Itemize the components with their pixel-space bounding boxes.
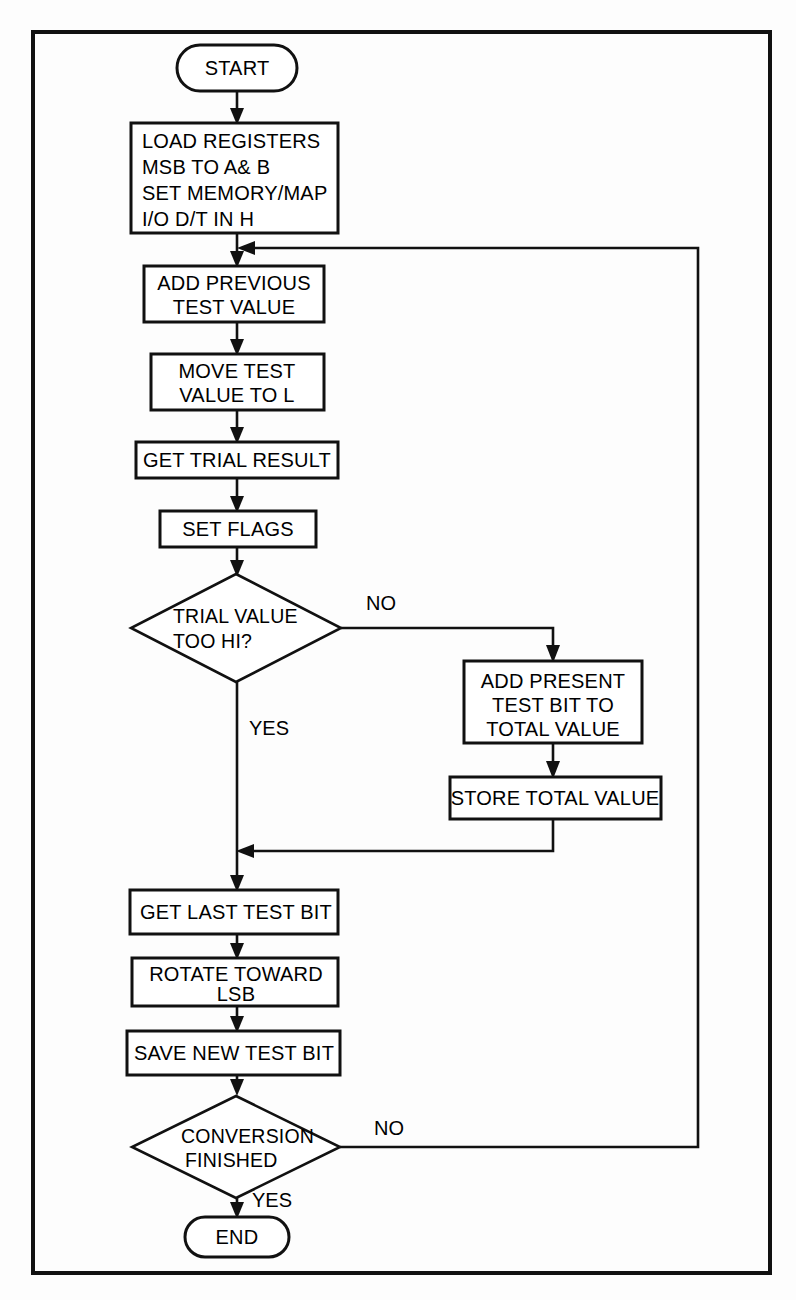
move-test-line-1: MOVE TEST bbox=[178, 360, 295, 382]
rotate-toward-lsb-line-1: ROTATE TOWARD bbox=[149, 963, 323, 985]
node-start[interactable]: START bbox=[177, 45, 297, 91]
node-add-previous[interactable]: ADD PREVIOUS TEST VALUE bbox=[144, 266, 324, 322]
node-save-new-test-bit[interactable]: SAVE NEW TEST BIT bbox=[127, 1031, 340, 1075]
edge-label-no-conversion: NO bbox=[374, 1117, 404, 1139]
load-registers-line-3: SET MEMORY/MAP bbox=[142, 182, 327, 204]
edge-label-yes-trial: YES bbox=[249, 717, 289, 739]
node-add-present[interactable]: ADD PRESENT TEST BIT TO TOTAL VALUE bbox=[464, 661, 642, 743]
connector-trial-no-to-add-present bbox=[341, 628, 560, 663]
node-load-registers[interactable]: LOAD REGISTERS MSB TO A& B SET MEMORY/MA… bbox=[131, 123, 338, 233]
trial-too-hi-line-1: TRIAL VALUE bbox=[173, 605, 298, 627]
move-test-line-2: VALUE TO L bbox=[179, 384, 294, 406]
get-trial-result-label: GET TRIAL RESULT bbox=[143, 449, 331, 471]
load-registers-line-2: MSB TO A& B bbox=[142, 156, 270, 178]
connector-start-to-load bbox=[230, 91, 244, 125]
connector-add-previous-to-move bbox=[230, 322, 244, 356]
edge-label-yes-conversion: YES bbox=[252, 1189, 292, 1211]
end-label: END bbox=[216, 1226, 259, 1248]
flowchart-page: START LOAD REGISTERS MSB TO A& B SET MEM… bbox=[0, 0, 796, 1300]
node-rotate-toward-lsb[interactable]: ROTATE TOWARD LSB bbox=[132, 958, 338, 1006]
load-registers-line-4: I/O D/T IN H bbox=[142, 208, 254, 230]
connector-get-trial-to-set-flags bbox=[230, 478, 244, 513]
node-conversion-finished[interactable]: CONVERSION FINISHED bbox=[132, 1096, 340, 1198]
connector-get-last-to-rotate bbox=[230, 934, 244, 960]
trial-too-hi-shape bbox=[131, 574, 341, 682]
store-total-label: STORE TOTAL VALUE bbox=[451, 787, 660, 809]
node-end[interactable]: END bbox=[185, 1217, 289, 1257]
flowchart-canvas: START LOAD REGISTERS MSB TO A& B SET MEM… bbox=[0, 0, 796, 1300]
connector-set-flags-to-decision bbox=[230, 547, 244, 577]
add-previous-line-2: TEST VALUE bbox=[173, 296, 295, 318]
connector-save-to-decision bbox=[230, 1075, 244, 1096]
load-registers-line-1: LOAD REGISTERS bbox=[142, 130, 320, 152]
connector-rotate-to-save bbox=[230, 1006, 244, 1033]
connector-move-to-get-trial bbox=[230, 410, 244, 444]
rotate-toward-lsb-line-2: LSB bbox=[217, 983, 255, 1005]
trial-too-hi-line-2: TOO HI? bbox=[173, 630, 252, 652]
node-layer: START LOAD REGISTERS MSB TO A& B SET MEM… bbox=[127, 45, 661, 1257]
connector-add-present-to-store bbox=[546, 743, 560, 779]
node-get-trial-result[interactable]: GET TRIAL RESULT bbox=[136, 442, 338, 478]
connector-store-to-merge bbox=[236, 819, 553, 858]
node-move-test[interactable]: MOVE TEST VALUE TO L bbox=[151, 354, 324, 410]
edge-label-no-trial: NO bbox=[366, 592, 396, 614]
start-label: START bbox=[205, 57, 270, 79]
node-get-last-test-bit[interactable]: GET LAST TEST BIT bbox=[130, 890, 338, 934]
get-last-test-bit-label: GET LAST TEST BIT bbox=[140, 901, 332, 923]
connector-load-to-add-previous bbox=[230, 233, 244, 268]
connector-trial-yes-down bbox=[230, 682, 244, 892]
node-store-total[interactable]: STORE TOTAL VALUE bbox=[450, 777, 661, 819]
conversion-finished-line-2: FINISHED bbox=[185, 1149, 278, 1171]
conversion-finished-line-1: CONVERSION bbox=[181, 1125, 314, 1147]
node-trial-too-hi[interactable]: TRIAL VALUE TOO HI? bbox=[131, 574, 341, 682]
conversion-finished-shape bbox=[132, 1096, 340, 1198]
node-set-flags[interactable]: SET FLAGS bbox=[160, 511, 316, 547]
add-present-line-2: TEST BIT TO bbox=[492, 694, 614, 716]
save-new-test-bit-label: SAVE NEW TEST BIT bbox=[134, 1042, 334, 1064]
add-previous-line-1: ADD PREVIOUS bbox=[157, 272, 311, 294]
add-present-line-3: TOTAL VALUE bbox=[486, 718, 620, 740]
set-flags-label: SET FLAGS bbox=[182, 518, 293, 540]
add-present-line-1: ADD PRESENT bbox=[481, 670, 625, 692]
